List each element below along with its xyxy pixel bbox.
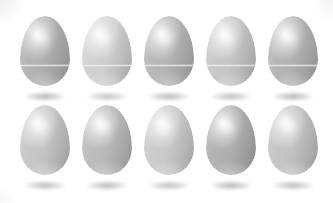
- egg-rim-shading: [82, 105, 132, 175]
- egg-cell[interactable]: [18, 103, 72, 191]
- egg-shape[interactable]: [268, 16, 318, 86]
- egg-rim-shading: [206, 16, 256, 86]
- egg-highlight: [158, 117, 174, 137]
- egg-shape[interactable]: [206, 16, 256, 86]
- egg-seam-line: [206, 64, 256, 67]
- egg-cell[interactable]: [266, 103, 320, 191]
- egg-shape[interactable]: [268, 105, 318, 175]
- egg-highlight: [220, 28, 236, 48]
- egg-cell[interactable]: [142, 14, 196, 102]
- egg-rim-shading: [82, 16, 132, 86]
- egg-shadow: [149, 181, 189, 190]
- egg-seam-line: [268, 64, 318, 67]
- egg-rim-shading: [206, 105, 256, 175]
- egg-cell[interactable]: [142, 103, 196, 191]
- egg-highlight: [220, 117, 236, 137]
- egg-rim-shading: [144, 16, 194, 86]
- egg-shadow: [211, 92, 251, 101]
- egg-highlight: [282, 28, 298, 48]
- egg-cell[interactable]: [80, 14, 134, 102]
- egg-highlight: [96, 117, 112, 137]
- egg-shape[interactable]: [144, 105, 194, 175]
- egg-highlight: [96, 28, 112, 48]
- egg-cell[interactable]: [204, 14, 258, 102]
- egg-rim-shading: [144, 105, 194, 175]
- egg-shadow: [25, 181, 65, 190]
- egg-shadow: [149, 92, 189, 101]
- egg-seam-line: [20, 64, 70, 67]
- egg-shadow: [87, 92, 127, 101]
- egg-highlight: [158, 28, 174, 48]
- egg-shape[interactable]: [20, 16, 70, 86]
- egg-shadow: [87, 181, 127, 190]
- egg-shape[interactable]: [20, 105, 70, 175]
- egg-seam-line: [144, 64, 194, 67]
- egg-shadow: [211, 181, 251, 190]
- egg-shape[interactable]: [206, 105, 256, 175]
- egg-highlight: [282, 117, 298, 137]
- egg-highlight: [34, 117, 50, 137]
- egg-shadow: [273, 92, 313, 101]
- egg-rim-shading: [268, 16, 318, 86]
- egg-scene: [0, 0, 333, 203]
- egg-row-top: [0, 14, 333, 102]
- egg-rim-shading: [268, 105, 318, 175]
- egg-cell[interactable]: [266, 14, 320, 102]
- egg-shape[interactable]: [144, 16, 194, 86]
- egg-cell[interactable]: [18, 14, 72, 102]
- egg-shape[interactable]: [82, 16, 132, 86]
- egg-rim-shading: [20, 105, 70, 175]
- egg-shape[interactable]: [82, 105, 132, 175]
- egg-seam-line: [82, 64, 132, 67]
- egg-highlight: [34, 28, 50, 48]
- egg-cell[interactable]: [80, 103, 134, 191]
- egg-row-bottom: [0, 103, 333, 191]
- egg-rim-shading: [20, 16, 70, 86]
- egg-shadow: [273, 181, 313, 190]
- egg-shadow: [25, 92, 65, 101]
- egg-cell[interactable]: [204, 103, 258, 191]
